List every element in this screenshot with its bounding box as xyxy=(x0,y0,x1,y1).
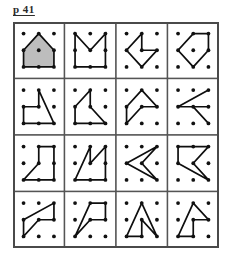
geoboard-peg xyxy=(73,48,77,52)
geoboard-peg xyxy=(88,32,92,36)
geoboard-peg xyxy=(207,122,211,126)
geoboard-peg xyxy=(104,88,108,92)
geoboard-peg xyxy=(22,32,26,36)
geoboard-peg xyxy=(22,122,26,126)
geoboard-peg xyxy=(37,201,41,205)
geoboard-peg xyxy=(88,145,92,149)
geoboard-peg xyxy=(191,48,195,52)
geoboard-peg xyxy=(140,48,144,52)
geoboard-peg xyxy=(125,48,129,52)
geoboard-peg xyxy=(207,235,211,239)
geoboard-peg xyxy=(191,145,195,149)
geoboard-peg xyxy=(37,178,41,182)
geoboard-peg xyxy=(140,235,144,239)
geoboard-peg xyxy=(155,201,159,205)
geoboard-peg xyxy=(155,32,159,36)
geoboard-peg xyxy=(73,122,77,126)
geoboard-peg xyxy=(73,235,77,239)
geoboard-peg xyxy=(140,218,144,222)
geoboard-peg xyxy=(155,65,159,69)
geoboard-peg xyxy=(88,201,92,205)
geoboard-peg xyxy=(191,218,195,222)
geoboard-peg xyxy=(125,218,129,222)
geoboard-peg xyxy=(52,65,56,69)
geoboard-peg xyxy=(155,178,159,182)
geoboard-peg xyxy=(52,201,56,205)
geoboard-peg xyxy=(155,145,159,149)
geoboard-peg xyxy=(22,161,26,165)
geoboard-grid xyxy=(13,22,219,248)
geoboard-peg xyxy=(104,145,108,149)
geoboard-peg xyxy=(155,105,159,109)
geoboard-peg xyxy=(140,161,144,165)
geoboard-peg xyxy=(52,161,56,165)
geoboard-peg xyxy=(73,218,77,222)
geoboard-peg xyxy=(176,145,180,149)
geoboard-peg xyxy=(140,122,144,126)
geoboard-peg xyxy=(22,145,26,149)
geoboard-peg xyxy=(88,218,92,222)
geoboard-peg xyxy=(191,235,195,239)
geoboard-peg xyxy=(52,32,56,36)
geoboard-peg xyxy=(125,122,129,126)
geoboard-peg xyxy=(191,122,195,126)
geoboard-peg xyxy=(73,145,77,149)
geoboard-peg xyxy=(207,218,211,222)
geoboard-peg xyxy=(52,48,56,52)
geoboard-peg xyxy=(88,161,92,165)
geoboard-peg xyxy=(176,122,180,126)
geoboard-peg xyxy=(104,48,108,52)
geoboard-peg xyxy=(191,201,195,205)
geoboard-peg xyxy=(22,218,26,222)
geoboard-peg xyxy=(207,65,211,69)
geoboard-peg xyxy=(207,201,211,205)
geoboard-peg xyxy=(52,122,56,126)
geoboard-peg xyxy=(125,201,129,205)
geoboard-peg xyxy=(140,178,144,182)
geoboard-peg xyxy=(191,32,195,36)
geoboard-peg xyxy=(22,235,26,239)
geoboard-peg xyxy=(140,88,144,92)
geoboard-peg xyxy=(176,218,180,222)
geoboard-peg xyxy=(37,145,41,149)
page-label: p 41 xyxy=(13,3,35,16)
geoboard-peg xyxy=(191,178,195,182)
geoboard-peg xyxy=(37,218,41,222)
geoboard-peg xyxy=(207,32,211,36)
geoboard-peg xyxy=(104,32,108,36)
geoboard-peg xyxy=(155,235,159,239)
geoboard-peg xyxy=(176,178,180,182)
geoboard-peg xyxy=(52,178,56,182)
geoboard-peg xyxy=(140,201,144,205)
geoboard-peg xyxy=(22,178,26,182)
geoboard-peg xyxy=(191,88,195,92)
geoboard-peg xyxy=(176,201,180,205)
geoboard-peg xyxy=(52,145,56,149)
geoboard-peg xyxy=(52,218,56,222)
geoboard-peg xyxy=(140,32,144,36)
geoboard-peg xyxy=(73,161,77,165)
geoboard-peg xyxy=(88,122,92,126)
geoboard-peg xyxy=(176,105,180,109)
geoboard-peg xyxy=(37,122,41,126)
geoboard-peg xyxy=(155,88,159,92)
geoboard-peg xyxy=(125,235,129,239)
geoboard-peg xyxy=(104,122,108,126)
geoboard-peg xyxy=(52,88,56,92)
geoboard-peg xyxy=(104,161,108,165)
geoboard-peg xyxy=(104,235,108,239)
geoboard-peg xyxy=(125,65,129,69)
geoboard-peg xyxy=(52,235,56,239)
geoboard-peg xyxy=(104,65,108,69)
geoboard-peg xyxy=(207,161,211,165)
geoboard-peg xyxy=(140,145,144,149)
geoboard-peg xyxy=(104,105,108,109)
geoboard-peg xyxy=(176,65,180,69)
geoboard-peg xyxy=(37,105,41,109)
geoboard-peg xyxy=(125,145,129,149)
geoboard-peg xyxy=(37,235,41,239)
geoboard-peg xyxy=(125,88,129,92)
geoboard-peg xyxy=(207,48,211,52)
geoboard-peg xyxy=(104,178,108,182)
geoboard-peg xyxy=(125,178,129,182)
